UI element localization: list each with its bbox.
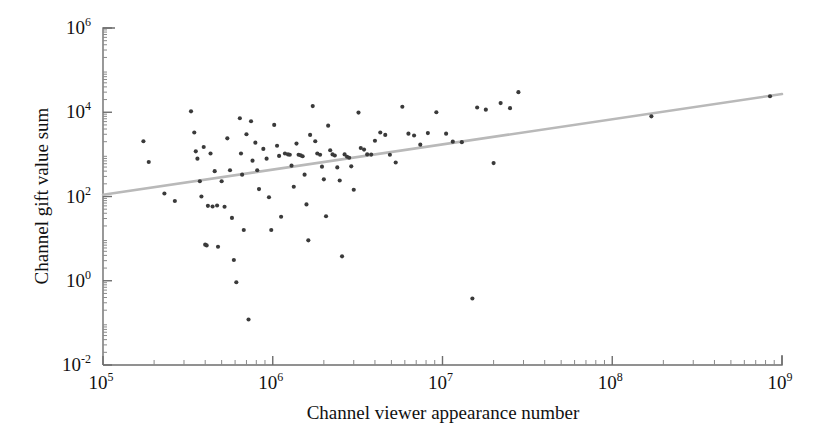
data-point xyxy=(347,156,351,160)
data-point xyxy=(249,119,253,123)
scatter-plot-canvas: 105106107108109 10-2100102104106 Channel… xyxy=(0,0,827,429)
data-point xyxy=(230,216,234,220)
data-point xyxy=(225,136,229,140)
data-point xyxy=(394,160,398,164)
data-point xyxy=(269,228,273,232)
data-point xyxy=(272,123,276,127)
data-point xyxy=(301,154,305,158)
data-point xyxy=(250,159,254,163)
data-point xyxy=(255,168,259,172)
data-point xyxy=(365,152,369,156)
data-point xyxy=(253,141,257,145)
data-point xyxy=(246,317,250,321)
data-point xyxy=(213,169,217,173)
data-point xyxy=(244,132,248,136)
data-point xyxy=(173,199,177,203)
data-point xyxy=(238,116,242,120)
x-axis-title: Channel viewer appearance number xyxy=(307,402,580,423)
data-point xyxy=(198,179,202,183)
data-point xyxy=(195,157,199,161)
data-point xyxy=(484,108,488,112)
data-point xyxy=(406,132,410,136)
data-point xyxy=(338,178,342,182)
data-point xyxy=(768,94,772,98)
data-point xyxy=(202,145,206,149)
data-point xyxy=(356,111,360,115)
data-point xyxy=(257,187,261,191)
data-point xyxy=(279,215,283,219)
data-point xyxy=(308,133,312,137)
data-point xyxy=(232,258,236,262)
data-point xyxy=(383,133,387,137)
data-point xyxy=(369,152,373,156)
data-point xyxy=(451,140,455,144)
x-axis-title-text: Channel viewer appearance number xyxy=(307,402,580,423)
data-point xyxy=(516,90,520,94)
data-point xyxy=(322,177,326,181)
data-point xyxy=(192,130,196,134)
data-point xyxy=(324,214,328,218)
data-point xyxy=(242,228,246,232)
data-point xyxy=(378,130,382,134)
data-point xyxy=(304,202,308,206)
data-point xyxy=(147,160,151,164)
data-point xyxy=(220,179,224,183)
data-point xyxy=(303,173,307,177)
data-point xyxy=(373,139,377,143)
data-point xyxy=(289,164,293,168)
data-point xyxy=(499,101,503,105)
data-point xyxy=(444,132,448,136)
data-point xyxy=(277,154,281,158)
data-point xyxy=(475,105,479,109)
data-point xyxy=(267,195,271,199)
data-point xyxy=(388,153,392,157)
data-point xyxy=(234,280,238,284)
data-point xyxy=(508,106,512,110)
data-point xyxy=(194,149,198,153)
y-axis-title: Channel gift value sum xyxy=(31,107,52,284)
data-point xyxy=(216,245,220,249)
data-point xyxy=(275,144,279,148)
data-point xyxy=(265,157,269,161)
data-point xyxy=(460,140,464,144)
data-point xyxy=(288,153,292,157)
data-point xyxy=(434,110,438,114)
data-point xyxy=(210,204,214,208)
data-point xyxy=(470,296,474,300)
data-point xyxy=(412,133,416,137)
data-point xyxy=(320,165,324,169)
data-point xyxy=(333,153,337,157)
data-point xyxy=(199,194,203,198)
data-point xyxy=(208,151,212,155)
data-point xyxy=(292,185,296,189)
data-point xyxy=(189,109,193,113)
data-point xyxy=(239,151,243,155)
data-point xyxy=(261,147,265,151)
data-point xyxy=(222,205,226,209)
data-point xyxy=(418,143,422,147)
data-point xyxy=(306,238,310,242)
data-point xyxy=(162,191,166,195)
data-point xyxy=(649,114,653,118)
data-point xyxy=(240,173,244,177)
data-point xyxy=(318,153,322,157)
data-point xyxy=(400,105,404,109)
data-point xyxy=(492,161,496,165)
chart-figure: 105106107108109 10-2100102104106 Channel… xyxy=(0,0,827,429)
data-point xyxy=(294,142,298,146)
data-point xyxy=(326,124,330,128)
data-point xyxy=(349,164,353,168)
data-point xyxy=(335,165,339,169)
data-point xyxy=(352,188,356,192)
data-point xyxy=(228,168,232,172)
data-point xyxy=(141,139,145,143)
data-point xyxy=(311,104,315,108)
data-point xyxy=(426,131,430,135)
data-point xyxy=(215,203,219,207)
data-point xyxy=(340,254,344,258)
y-axis-title-text: Channel gift value sum xyxy=(31,107,52,284)
data-point xyxy=(362,148,366,152)
data-point xyxy=(205,243,209,247)
data-point xyxy=(206,204,210,208)
data-point xyxy=(313,139,317,143)
